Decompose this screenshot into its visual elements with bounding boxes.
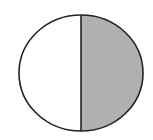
unshaded-left-half [19, 15, 81, 131]
diagram-canvas [0, 0, 153, 140]
fraction-circle-diagram [0, 0, 153, 140]
shaded-right-half [81, 15, 143, 131]
